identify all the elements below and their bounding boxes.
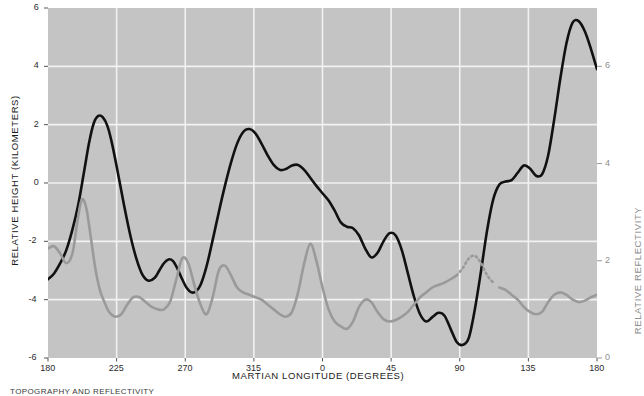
y-tick-label-left: 2 [34, 119, 39, 129]
x-tick-label: 270 [177, 363, 192, 373]
y-tick-label-right: 4 [605, 158, 610, 168]
y-axis-label-left: RELATIVE HEIGHT (KILOMETERS) [9, 81, 20, 281]
x-tick-label: 180 [40, 363, 55, 373]
y-tick-label-right: 6 [605, 60, 610, 70]
y-tick-label-left: 4 [34, 60, 39, 70]
chart-figure: RELATIVE HEIGHT (KILOMETERS) RELATIVE RE… [0, 0, 644, 396]
chart-canvas [0, 0, 644, 396]
y-tick-label-left: -6 [29, 352, 37, 362]
y-tick-label-left: -2 [29, 235, 37, 245]
x-tick-label: 90 [455, 363, 465, 373]
x-tick-label: 135 [521, 363, 536, 373]
x-tick-label: 45 [386, 363, 396, 373]
figure-caption: TOPOGRAPHY AND REFLECTIVITY [10, 387, 154, 396]
y-tick-label-left: 0 [34, 177, 39, 187]
x-tick-label: 0 [320, 363, 325, 373]
y-tick-label-left: 6 [34, 2, 39, 12]
y-axis-label-right: RELATIVE REFLECTIVITY [632, 171, 643, 371]
y-tick-label-right: 0 [605, 352, 610, 362]
x-tick-label: 315 [246, 363, 261, 373]
x-tick-label: 180 [589, 363, 604, 373]
y-tick-label-left: -4 [29, 294, 37, 304]
y-tick-label-right: 2 [605, 255, 610, 265]
x-tick-label: 225 [109, 363, 124, 373]
